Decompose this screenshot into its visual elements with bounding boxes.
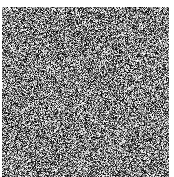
random-noise-canvas [2,7,169,177]
noise-image-frame: Full-frame random grayscale static noise [0,0,174,177]
